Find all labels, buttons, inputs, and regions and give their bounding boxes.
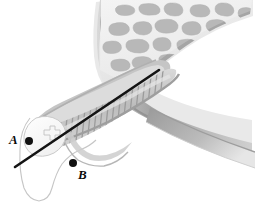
- label-a: A: [9, 133, 18, 146]
- label-b: B: [78, 168, 87, 181]
- anatomical-figure: A B: [0, 0, 255, 208]
- point-marker-a: [25, 137, 33, 145]
- point-marker-b: [69, 159, 77, 167]
- figure-canvas: [0, 0, 255, 208]
